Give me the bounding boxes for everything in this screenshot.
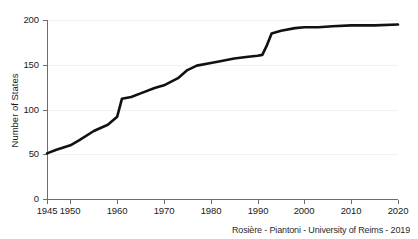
source-credit: Rosière - Piantoni - University of Reims… bbox=[232, 225, 410, 235]
line-plot bbox=[0, 0, 418, 239]
chart-container: Number of States 050100150200 1945195019… bbox=[0, 0, 418, 239]
data-series-line bbox=[47, 25, 398, 154]
